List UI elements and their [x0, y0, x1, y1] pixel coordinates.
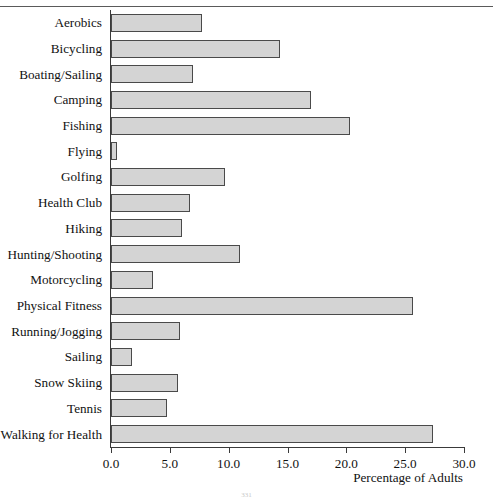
bar-row: Motorcycling: [111, 267, 464, 293]
bar-row: Walking for Health: [111, 421, 464, 447]
bar: [111, 65, 193, 83]
bar-row: Flying: [111, 139, 464, 165]
category-label: Motorcycling: [30, 273, 111, 286]
category-label: Aerobics: [54, 16, 111, 29]
x-axis-tick: [288, 447, 289, 453]
bar-row: Fishing: [111, 113, 464, 139]
category-label: Fishing: [62, 119, 111, 132]
category-label: Walking for Health: [1, 428, 111, 441]
bar: [111, 322, 180, 340]
x-axis-tick-label: 15.0: [276, 456, 299, 472]
bar-row: Physical Fitness: [111, 293, 464, 319]
x-axis-tick-label: 10.0: [217, 456, 240, 472]
bar-row: Health Club: [111, 190, 464, 216]
category-label: Golfing: [61, 170, 111, 183]
category-label: Sailing: [65, 350, 111, 363]
bar-chart-figure: AerobicsBicyclingBoating/SailingCampingF…: [0, 0, 493, 500]
bar-row: Camping: [111, 87, 464, 113]
bar-row: Golfing: [111, 164, 464, 190]
bar: [111, 245, 240, 263]
bar-row: Tennis: [111, 396, 464, 422]
bar: [111, 14, 202, 32]
category-label: Tennis: [67, 402, 111, 415]
category-label: Camping: [54, 93, 111, 106]
bar: [111, 91, 311, 109]
x-axis-tick: [346, 447, 347, 453]
bar-row: Hunting/Shooting: [111, 241, 464, 267]
category-label: Running/Jogging: [11, 325, 111, 338]
x-axis-tick: [170, 447, 171, 453]
bar-row: Sailing: [111, 344, 464, 370]
x-axis-tick: [464, 447, 465, 453]
category-label: Bicycling: [51, 42, 111, 55]
bar-row: Bicycling: [111, 36, 464, 62]
bar-row: Hiking: [111, 216, 464, 242]
bar: [111, 348, 132, 366]
bar: [111, 142, 117, 160]
x-axis-tick: [111, 447, 112, 453]
bar-row: Snow Skiing: [111, 370, 464, 396]
x-axis-tick: [229, 447, 230, 453]
x-axis-tick-label: 0.0: [103, 456, 119, 472]
category-label: Flying: [68, 145, 111, 158]
bar-row: Aerobics: [111, 10, 464, 36]
bar: [111, 194, 190, 212]
x-axis-tick: [405, 447, 406, 453]
bar: [111, 168, 225, 186]
category-label: Hiking: [65, 222, 111, 235]
bar-row: Running/Jogging: [111, 318, 464, 344]
bar-row: Boating/Sailing: [111, 61, 464, 87]
bar: [111, 219, 182, 237]
category-label: Boating/Sailing: [19, 68, 111, 81]
category-label: Hunting/Shooting: [7, 248, 111, 261]
bar: [111, 40, 280, 58]
bar: [111, 425, 433, 443]
page-number: 331: [241, 491, 252, 499]
category-label: Snow Skiing: [34, 376, 111, 389]
bar: [111, 271, 153, 289]
bar: [111, 399, 167, 417]
x-axis-title: Percentage of Adults: [353, 470, 463, 486]
bar: [111, 117, 350, 135]
top-divider: [0, 6, 493, 7]
category-label: Health Club: [38, 196, 111, 209]
bar: [111, 297, 413, 315]
x-axis-tick-label: 5.0: [162, 456, 178, 472]
bar: [111, 374, 178, 392]
plot-area: AerobicsBicyclingBoating/SailingCampingF…: [110, 10, 464, 448]
category-label: Physical Fitness: [17, 299, 111, 312]
